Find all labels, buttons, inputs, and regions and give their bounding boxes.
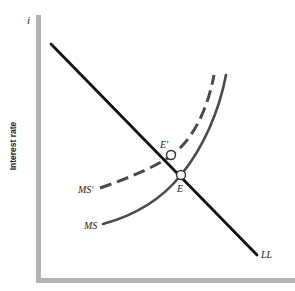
y-axis-label: Interest rate xyxy=(8,121,18,170)
ms-prime-curve xyxy=(100,75,214,188)
point-e xyxy=(177,171,186,180)
label-ll: LL xyxy=(260,249,273,260)
x-axis xyxy=(36,278,295,283)
label-ms: MS xyxy=(83,220,97,231)
label-e-prime: E′ xyxy=(159,139,169,150)
y-axis-symbol: i xyxy=(27,14,30,26)
interest-rate-diagram: i Interest rate E′ E MS′ MS LL xyxy=(0,0,295,291)
point-e-prime xyxy=(167,151,176,160)
label-ms-prime: MS′ xyxy=(77,184,94,195)
label-e: E xyxy=(176,183,183,194)
y-axis xyxy=(36,15,41,282)
